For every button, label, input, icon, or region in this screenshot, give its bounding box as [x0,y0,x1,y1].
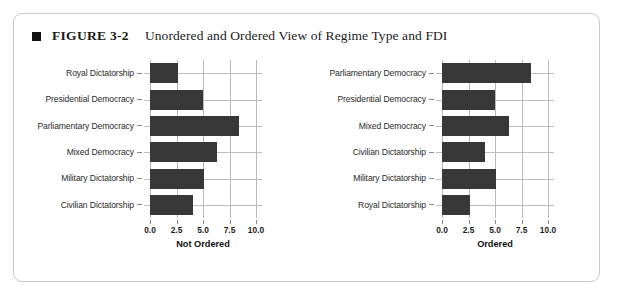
gridline [522,60,523,218]
y-axis-tick [429,204,434,205]
x-axis-tick-label: 7.5 [516,225,528,235]
y-axis-tick [137,125,142,126]
y-axis-label-row: Mixed Democracy [67,139,142,165]
gridline [203,60,204,218]
bar [150,195,193,215]
y-axis-tick [429,125,434,126]
y-axis-label-row: Mixed Democracy [359,113,434,139]
bar [442,90,495,110]
x-axis-tick [177,220,178,224]
y-axis-labels-not-ordered: Royal DictatorshipPresidential Democracy… [16,60,142,218]
y-axis-tick [429,73,434,74]
y-axis-tick [429,99,434,100]
charts-container: Royal DictatorshipPresidential Democracy… [14,52,601,277]
y-axis-tick [137,99,142,100]
y-axis-label-text: Civilian Dictatorship [61,200,134,210]
y-axis-label-row: Presidential Democracy [45,86,142,112]
plot-area-not-ordered [150,60,256,218]
x-axis-tick-label: 2.5 [463,225,475,235]
y-axis-label-row: Civilian Dictatorship [61,192,142,218]
y-axis-label-row: Civilian Dictatorship [353,139,434,165]
bar [150,142,217,162]
x-axis-tick-label: 0.0 [436,225,448,235]
x-axis-tick [442,220,443,224]
y-axis-label-text: Parliamentary Democracy [329,68,426,78]
y-axis-label-row: Royal Dictatorship [358,192,434,218]
figure-title: Unordered and Ordered View of Regime Typ… [145,28,448,44]
y-axis-label-row: Military Dictatorship [353,165,434,191]
y-axis-label-text: Mixed Democracy [67,147,134,157]
y-axis-label-text: Military Dictatorship [353,173,426,183]
x-axis-tick-label: 0.0 [144,225,156,235]
y-axis-label-text: Presidential Democracy [45,94,134,104]
x-axis-tick-label: 10.0 [248,225,264,235]
x-axis-title-ordered: Ordered [477,239,513,249]
x-axis-tick [548,220,549,224]
y-axis-label-text: Military Dictatorship [61,173,134,183]
figure-number: FIGURE 3-2 [52,28,129,44]
y-axis-label-text: Civilian Dictatorship [353,147,426,157]
y-axis-label-text: Royal Dictatorship [358,200,426,210]
bar [150,90,203,110]
y-axis-label-row: Presidential Democracy [337,86,434,112]
plot-area-ordered [442,60,548,218]
bar [150,169,204,189]
x-axis-tick [230,220,231,224]
x-axis-tick [469,220,470,224]
x-axis-not-ordered: Not Ordered 0.02.55.07.510.0 [150,220,256,260]
gridline [495,60,496,218]
x-axis-tick-label: 10.0 [540,225,556,235]
y-axis-tick [137,73,142,74]
x-axis-tick [495,220,496,224]
x-axis-title-not-ordered: Not Ordered [176,239,230,249]
x-axis-tick [256,220,257,224]
bar [150,116,239,136]
x-axis-tick-label: 2.5 [171,225,183,235]
square-bullet-icon [32,32,41,41]
y-axis-label-row: Parliamentary Democracy [329,60,434,86]
figure-caption: FIGURE 3-2 Unordered and Ordered View of… [32,28,447,44]
y-axis-tick [429,178,434,179]
bar [442,116,509,136]
figure-card: FIGURE 3-2 Unordered and Ordered View of… [13,13,600,282]
chart-panel-not-ordered: Royal DictatorshipPresidential Democracy… [16,52,308,277]
y-axis-tick [137,178,142,179]
x-axis-tick [203,220,204,224]
y-axis-label-row: Royal Dictatorship [66,60,142,86]
y-axis-label-text: Presidential Democracy [337,94,426,104]
y-axis-tick [137,204,142,205]
y-axis-label-text: Mixed Democracy [359,121,426,131]
gridline [230,60,231,218]
bar [442,142,485,162]
x-axis-tick-label: 5.0 [489,225,501,235]
gridline [548,60,549,218]
chart-panel-ordered: Parliamentary DemocracyPresidential Demo… [308,52,600,277]
y-axis-label-row: Parliamentary Democracy [37,113,142,139]
y-axis-tick [429,152,434,153]
bar [442,169,496,189]
bar [442,63,531,83]
gridline [256,60,257,218]
y-axis-label-text: Royal Dictatorship [66,68,134,78]
y-axis-tick [137,152,142,153]
x-axis-tick [150,220,151,224]
x-axis-ordered: Ordered 0.02.55.07.510.0 [442,220,548,260]
x-axis-tick-label: 5.0 [197,225,209,235]
y-axis-label-row: Military Dictatorship [61,165,142,191]
x-axis-tick-label: 7.5 [224,225,236,235]
bar [150,63,178,83]
bar [442,195,470,215]
y-axis-label-text: Parliamentary Democracy [37,121,134,131]
x-axis-tick [522,220,523,224]
y-axis-labels-ordered: Parliamentary DemocracyPresidential Demo… [308,60,434,218]
